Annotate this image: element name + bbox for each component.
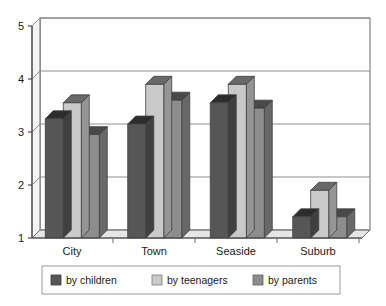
legend-label-by-teenagers: by teenagers [167, 274, 228, 286]
bar-chart: 5 4 3 2 1 City Town Seaside Suburb [0, 0, 386, 306]
y-tick-label-1: 1 [18, 232, 24, 244]
bar-side-face [246, 76, 254, 238]
bar-seaside-by-children [210, 95, 236, 238]
bar-side-face [264, 100, 272, 238]
bar-front-face [210, 103, 228, 238]
bar-side-face [164, 76, 172, 238]
x-label-town: Town [141, 245, 167, 257]
y-axis [28, 26, 32, 238]
legend-swatch-by-parents [253, 275, 263, 285]
bar-side-face [182, 92, 190, 238]
bar-side-face [228, 95, 236, 238]
legend: by children by teenagers by parents [42, 266, 340, 294]
bar-side-face [329, 182, 337, 238]
bar-city-by-children [45, 111, 71, 238]
x-category-labels: City Town Seaside Suburb [63, 245, 336, 257]
x-label-seaside: Seaside [216, 245, 256, 257]
legend-label-by-parents: by parents [268, 274, 317, 286]
x-label-suburb: Suburb [300, 245, 335, 257]
legend-label-by-children: by children [66, 274, 117, 286]
legend-swatch-by-teenagers [152, 275, 162, 285]
x-axis [32, 238, 362, 243]
x-label-city: City [63, 245, 82, 257]
legend-swatch-by-children [51, 275, 61, 285]
bar-side-face [81, 95, 89, 238]
y-tick-labels: 5 4 3 2 1 [18, 20, 24, 244]
legend-item-by-children[interactable]: by children [51, 274, 117, 286]
y-tick-label-4: 4 [18, 73, 24, 85]
legend-item-by-parents[interactable]: by parents [253, 274, 317, 286]
bar-side-face [99, 127, 107, 238]
bar-front-face [128, 124, 146, 238]
bar-side-face [63, 111, 71, 238]
y-tick-label-2: 2 [18, 179, 24, 191]
bar-front-face [293, 217, 311, 238]
bar-side-face [146, 116, 154, 238]
chart-canvas: 5 4 3 2 1 City Town Seaside Suburb [0, 0, 386, 306]
bar-suburb-by-children [293, 209, 319, 238]
bar-town-by-children [128, 116, 154, 238]
y-tick-label-3: 3 [18, 126, 24, 138]
y-tick-label-5: 5 [18, 20, 24, 32]
bar-front-face [45, 119, 63, 238]
